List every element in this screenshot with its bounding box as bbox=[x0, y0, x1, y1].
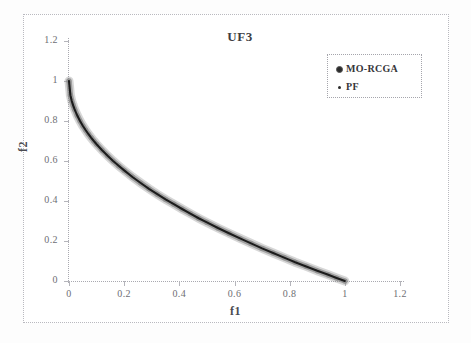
legend-item-mo-rcga: MO-RCGA bbox=[334, 59, 421, 77]
data-series-layer bbox=[0, 0, 471, 343]
mo-rcga-band-inner bbox=[69, 81, 345, 281]
legend-marker-dot-icon bbox=[334, 78, 344, 94]
legend-marker-circle-icon bbox=[334, 60, 344, 76]
series-pf bbox=[69, 81, 345, 281]
legend-box: MO-RCGA PF bbox=[327, 54, 422, 98]
mo-rcga-band-outer bbox=[69, 81, 345, 281]
legend-label-pf: PF bbox=[346, 81, 359, 92]
legend-label-mo-rcga: MO-RCGA bbox=[346, 63, 398, 74]
series-mo-rcga bbox=[66, 78, 347, 283]
pf-line bbox=[69, 81, 345, 281]
figure-container: UF3 00.20.40.60.811.2 00.20.40.60.811.2 … bbox=[0, 0, 471, 343]
legend-item-pf: PF bbox=[334, 77, 421, 95]
